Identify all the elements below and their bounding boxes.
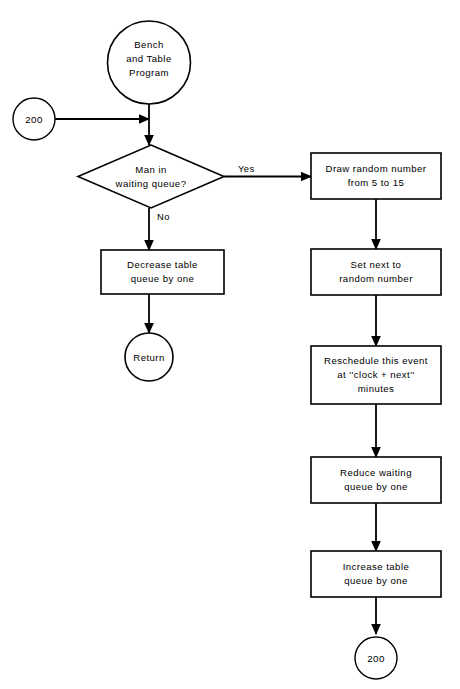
node-entry-connector: 200 (13, 98, 55, 140)
reschedule-line-3: minutes (358, 383, 395, 394)
node-reschedule: Reschedule this event at ''clock + next'… (311, 346, 441, 404)
reduce-waiting-line-2: queue by one (344, 481, 408, 492)
node-increase-table: Increase table queue by one (311, 551, 441, 597)
set-next-line-1: Set next to (351, 259, 402, 270)
increase-table-line-1: Increase table (343, 561, 410, 572)
reschedule-line-1: Reschedule this event (324, 355, 428, 366)
node-return: Return (125, 333, 173, 381)
set-next-box (311, 249, 441, 295)
start-line-3: Program (129, 67, 169, 78)
increase-table-line-2: queue by one (344, 575, 408, 586)
reduce-waiting-line-1: Reduce waiting (340, 467, 412, 478)
start-line-1: Bench (134, 39, 163, 50)
node-exit-connector: 200 (355, 637, 397, 679)
draw-random-box (311, 153, 441, 199)
reduce-waiting-box (311, 457, 441, 503)
node-reduce-waiting: Reduce waiting queue by one (311, 457, 441, 503)
decrease-table-line-1: Decrease table (127, 259, 198, 270)
decision-yes-label: Yes (238, 163, 255, 174)
decision-line-1: Man in (135, 164, 167, 175)
decision-no-label: No (157, 211, 170, 222)
start-line-2: and Table (126, 53, 171, 64)
draw-random-line-2: from 5 to 15 (348, 177, 405, 188)
set-next-line-2: random number (339, 273, 413, 284)
entry-connector-label: 200 (25, 114, 43, 125)
decrease-table-box (101, 250, 224, 294)
decision-diamond (78, 145, 224, 208)
return-label: Return (133, 352, 165, 363)
decision-line-2: waiting queue? (115, 178, 187, 189)
node-set-next: Set next to random number (311, 249, 441, 295)
node-decision: Man in waiting queue? (78, 145, 224, 208)
increase-table-box (311, 551, 441, 597)
node-draw-random: Draw random number from 5 to 15 (311, 153, 441, 199)
exit-connector-label: 200 (367, 653, 385, 664)
node-decrease-table: Decrease table queue by one (101, 250, 224, 294)
decrease-table-line-2: queue by one (131, 273, 195, 284)
flowchart-diagram: Bench and Table Program 200 Man in waiti… (0, 0, 460, 689)
draw-random-line-1: Draw random number (326, 163, 427, 174)
node-start: Bench and Table Program (108, 21, 191, 104)
reschedule-line-2: at ''clock + next'' (337, 369, 414, 380)
